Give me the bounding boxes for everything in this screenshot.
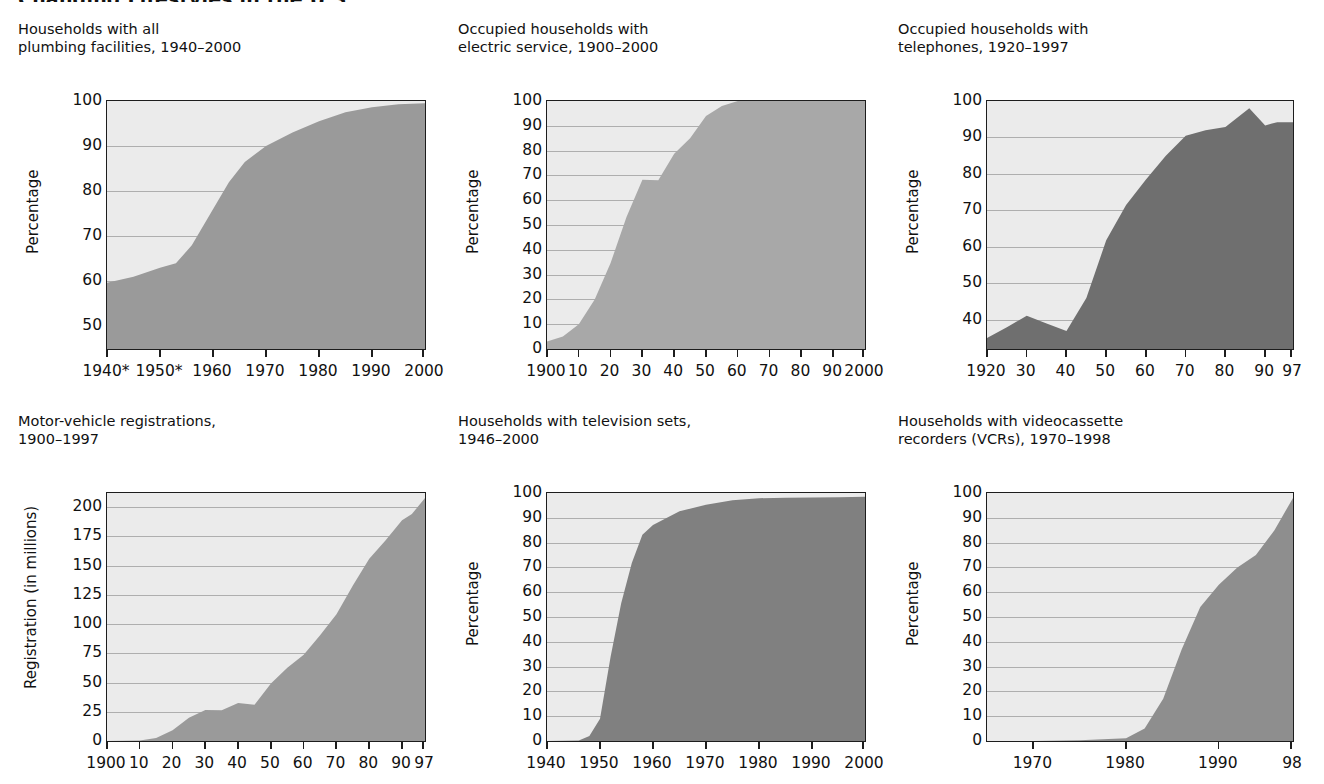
plot-motor-vehicles: [106, 492, 426, 742]
y-tick-label: 50: [900, 273, 982, 291]
x-tick-mark: [303, 742, 305, 749]
x-tick-label: 50: [260, 754, 280, 772]
y-tick-label: 90: [900, 127, 982, 145]
x-tick-label: 1970: [245, 362, 284, 380]
y-tick-label: 80: [20, 181, 102, 199]
y-tick-label: 100: [900, 483, 982, 501]
x-tick-label: 1920: [966, 362, 1005, 380]
x-tick-mark: [862, 350, 864, 357]
y-axis-ticks-electric: 0102030405060708090100: [458, 74, 542, 354]
x-tick-mark: [237, 742, 239, 749]
chart-panel-plumbing: Households with all plumbing facilities,…: [18, 20, 448, 390]
y-tick-label: 100: [460, 91, 542, 109]
x-tick-label: 97: [414, 754, 434, 772]
y-axis-ticks-motor-vehicles: 0255075100125150175200: [18, 466, 102, 746]
x-tick-label: 30: [194, 754, 214, 772]
x-tick-mark: [800, 350, 802, 357]
x-tick-label: 1990: [1198, 754, 1237, 772]
chart-panel-television: Households with television sets, 1946–20…: [458, 412, 888, 784]
x-tick-label: 40: [227, 754, 247, 772]
area-fill: [987, 108, 1293, 349]
chart-title-vcr: Households with videocassette recorders …: [898, 412, 1318, 448]
x-tick-label: 1980: [298, 362, 337, 380]
x-tick-mark: [1065, 350, 1067, 357]
chart-title-electric: Occupied households with electric servic…: [458, 20, 878, 56]
y-axis-ticks-telephones: 405060708090100: [898, 74, 982, 354]
plot-telephones: [986, 100, 1294, 350]
x-tick-mark: [270, 742, 272, 749]
x-tick-mark: [106, 742, 108, 749]
y-tick-label: 175: [20, 526, 102, 544]
charts-grid: Households with all plumbing facilities,…: [0, 0, 1324, 784]
plot-electric: [546, 100, 866, 350]
x-tick-label: 40: [1056, 362, 1076, 380]
x-tick-label: 2000: [844, 362, 883, 380]
y-tick-label: 90: [20, 136, 102, 154]
y-axis-ticks-television: 0102030405060708090100: [458, 466, 542, 746]
y-tick-label: 60: [20, 271, 102, 289]
y-tick-label: 80: [900, 533, 982, 551]
x-tick-label: 1960: [192, 362, 231, 380]
plot-television: [546, 492, 866, 742]
y-axis-ticks-vcr: 0102030405060708090100: [898, 466, 982, 746]
chart-area-telephones: Percentage 405060708090100 1920304050607…: [898, 74, 1324, 390]
x-tick-mark: [1032, 742, 1034, 749]
x-tick-label: 70: [326, 754, 346, 772]
x-tick-mark: [1125, 742, 1127, 749]
area-series-television: [547, 493, 865, 741]
x-tick-mark: [546, 742, 548, 749]
x-tick-mark: [599, 742, 601, 749]
y-tick-label: 80: [900, 164, 982, 182]
y-tick-label: 10: [460, 314, 542, 332]
area-series-telephones: [987, 101, 1293, 349]
y-tick-label: 80: [460, 141, 542, 159]
x-tick-mark: [705, 742, 707, 749]
x-tick-label: 2000: [844, 754, 883, 772]
y-tick-label: 70: [20, 226, 102, 244]
y-tick-label: 60: [460, 190, 542, 208]
x-tick-label: 20: [162, 754, 182, 772]
y-tick-label: 50: [460, 215, 542, 233]
x-tick-label: 50: [695, 362, 715, 380]
y-tick-label: 50: [460, 607, 542, 625]
y-tick-label: 90: [460, 116, 542, 134]
x-tick-mark: [811, 742, 813, 749]
y-tick-label: 70: [460, 165, 542, 183]
x-tick-mark: [368, 742, 370, 749]
y-tick-label: 50: [20, 316, 102, 334]
x-tick-label: 1970: [1013, 754, 1052, 772]
area-series-plumbing: [107, 101, 425, 349]
x-axis-plumbing: 1940*1950*19601970198019902000: [106, 350, 426, 390]
x-tick-mark: [862, 742, 864, 749]
x-tick-mark: [769, 350, 771, 357]
chart-title-telephones: Occupied households with telephones, 192…: [898, 20, 1318, 56]
y-tick-label: 200: [20, 497, 102, 515]
y-tick-label: 20: [460, 289, 542, 307]
x-tick-mark: [1105, 350, 1107, 357]
x-tick-mark: [673, 350, 675, 357]
y-tick-label: 50: [900, 607, 982, 625]
x-tick-mark: [1218, 742, 1220, 749]
x-tick-label: 20: [600, 362, 620, 380]
area-fill: [547, 101, 865, 349]
area-fill: [107, 498, 425, 741]
y-tick-label: 0: [20, 731, 102, 749]
x-tick-label: 97: [1282, 362, 1302, 380]
x-tick-mark: [641, 350, 643, 357]
x-tick-label: 1990: [351, 362, 390, 380]
x-tick-mark: [318, 350, 320, 357]
x-tick-label: 1980: [738, 754, 777, 772]
x-tick-label: 50: [1095, 362, 1115, 380]
x-tick-mark: [652, 742, 654, 749]
y-tick-label: 150: [20, 556, 102, 574]
y-tick-label: 90: [460, 508, 542, 526]
y-tick-label: 70: [460, 557, 542, 575]
x-tick-mark: [401, 742, 403, 749]
y-tick-label: 100: [20, 91, 102, 109]
chart-panel-vcr: Households with videocassette recorders …: [898, 412, 1324, 784]
y-axis-ticks-plumbing: 5060708090100: [18, 74, 102, 354]
y-tick-label: 30: [900, 657, 982, 675]
plot-vcr: [986, 492, 1294, 742]
y-tick-label: 100: [900, 91, 982, 109]
y-tick-label: 75: [20, 643, 102, 661]
